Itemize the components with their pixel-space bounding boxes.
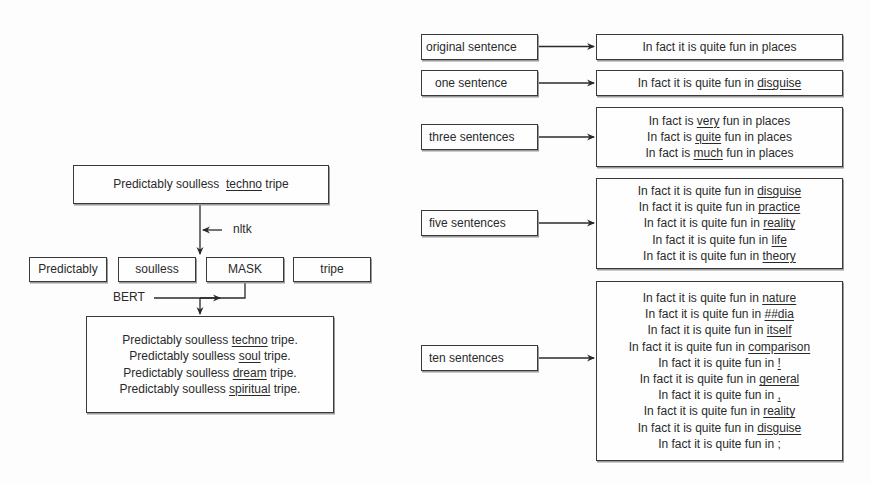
sentence-line: In fact it is quite fun in reality — [644, 215, 795, 231]
token-label: Predictably — [38, 261, 97, 277]
sentence-line: In fact it is quite fun in life — [652, 232, 787, 248]
model-label: BERT — [113, 290, 145, 304]
sentence-line: In fact it is quite fun in practice — [639, 199, 800, 215]
sentence-line: In fact it is quite fun in theory — [643, 248, 796, 264]
row-label-five: five sentences — [421, 210, 538, 236]
sentence-line: In fact it is quite fun in places — [642, 39, 796, 55]
sentence-line: In fact it is quite fun in ; — [658, 436, 781, 452]
sentence-line: In fact it is quite fun in comparison — [629, 339, 810, 355]
sentence-line: In fact is very fun in places — [649, 113, 790, 129]
sentence-line: In fact it is quite fun in nature — [643, 290, 796, 306]
sentence-line: In fact it is quite fun in disguise — [638, 420, 801, 436]
masked-word: techno — [226, 177, 262, 191]
predictions-box: Predictably soulless techno tripe. Predi… — [86, 316, 334, 413]
token-box: soulless — [118, 257, 196, 282]
row-label-original: original sentence — [421, 34, 538, 60]
sentence-line: In fact it is quite fun in disguise — [638, 75, 801, 91]
sentence-line: In fact it is quite fun in general — [640, 371, 799, 387]
sentences-box-three: In fact is very fun in places In fact is… — [596, 107, 843, 167]
token-box: tripe — [293, 257, 371, 282]
sentence-line: In fact it is quite fun in ##dia — [645, 306, 794, 322]
token-label: MASK — [228, 261, 262, 277]
row-label-one: one sentence — [421, 70, 538, 96]
sentence-line: In fact it is quite fun in itself — [647, 322, 791, 338]
token-box: Predictably — [29, 257, 107, 282]
sentence-line: In fact it is quite fun in ! — [658, 355, 781, 371]
prediction-line: Predictably soulless soul tripe. — [129, 348, 290, 364]
tokenizer-label: nltk — [233, 222, 252, 236]
prediction-line: Predictably soulless dream tripe. — [123, 365, 296, 381]
prediction-line: Predictably soulless techno tripe. — [122, 332, 297, 348]
sentence-line: In fact is much fun in places — [645, 145, 793, 161]
prediction-line: Predictably soulless spiritual tripe. — [120, 381, 301, 397]
token-label: soulless — [135, 261, 178, 277]
sentence-line: In fact it is quite fun in disguise — [638, 183, 801, 199]
sentences-box-original: In fact it is quite fun in places — [596, 34, 843, 60]
input-sentence: Predictably soulless techno tripe — [113, 176, 288, 192]
row-label-ten: ten sentences — [421, 345, 538, 371]
token-label: tripe — [320, 261, 343, 277]
sentence-line: In fact it is quite fun in , — [658, 387, 781, 403]
input-sentence-box: Predictably soulless techno tripe — [73, 165, 329, 204]
sentences-box-ten: In fact it is quite fun in nature In fac… — [596, 281, 843, 461]
sentences-box-five: In fact it is quite fun in disguise In f… — [596, 178, 843, 269]
row-label-three: three sentences — [421, 124, 538, 150]
sentences-box-one: In fact it is quite fun in disguise — [596, 70, 843, 96]
sentence-line: In fact it is quite fun in reality — [644, 403, 795, 419]
mask-token-box: MASK — [206, 257, 284, 282]
sentence-line: In fact is quite fun in places — [647, 129, 792, 145]
